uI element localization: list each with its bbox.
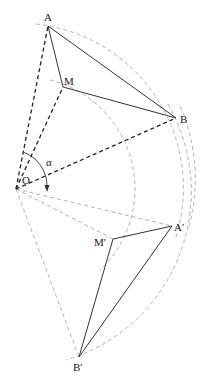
arc-A <box>36 24 183 240</box>
ray-O-A2 <box>16 189 172 226</box>
rotation-diagram: A M B O α A' M' B' <box>0 0 202 380</box>
label-M: M <box>64 75 74 87</box>
label-B-prime: B' <box>73 361 82 373</box>
arc-B <box>66 104 191 360</box>
label-A-prime: A' <box>174 221 184 233</box>
triangle-A2M2B2 <box>79 226 172 357</box>
triangle-AMB <box>48 26 176 118</box>
label-O: O <box>22 174 30 186</box>
ray-O-A <box>16 26 48 189</box>
label-B: B <box>180 113 187 125</box>
label-alpha: α <box>46 156 52 168</box>
arc-M <box>50 80 135 270</box>
label-M-prime: M' <box>94 236 106 248</box>
label-A: A <box>44 11 52 23</box>
ray-O-B2 <box>16 189 79 357</box>
ray-O-M2 <box>16 189 113 239</box>
ray-O-B <box>16 118 176 189</box>
angle-arrow-icon <box>45 185 50 192</box>
